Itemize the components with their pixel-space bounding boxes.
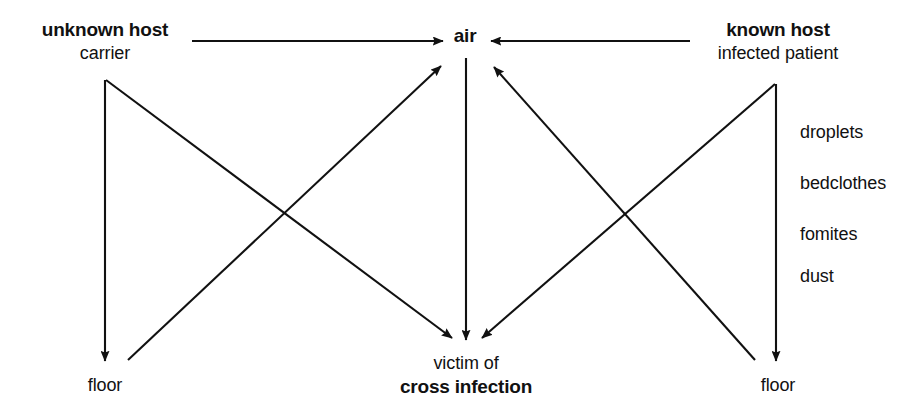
edge-floor-left-to-air [128,66,441,360]
node-air: air [454,24,477,48]
node-floor-right-label: floor [761,374,796,397]
node-known-host-title: known host [718,18,839,42]
vector-label-fomites: fomites [800,224,857,245]
edge-known-host-to-victim [482,84,775,338]
node-known-host: known host infected patient [718,18,839,64]
node-victim-subtitle: victim of [400,352,532,375]
vector-label-dust: dust [800,266,834,287]
node-floor-left: floor [88,374,123,397]
node-unknown-host-subtitle: carrier [42,42,168,65]
node-air-title: air [454,24,477,48]
node-unknown-host: unknown host carrier [42,18,168,64]
node-victim: victim of cross infection [400,352,532,398]
node-known-host-subtitle: infected patient [718,42,839,65]
vector-label-droplets: droplets [800,122,863,143]
node-floor-right: floor [761,374,796,397]
cross-infection-diagram: unknown host carrier air known host infe… [0,0,918,418]
node-floor-left-label: floor [88,374,123,397]
edge-floor-right-to-air [494,67,755,360]
edge-unknown-host-to-victim [106,80,452,338]
vector-label-bedclothes: bedclothes [800,173,886,194]
node-victim-title: cross infection [400,375,532,399]
node-unknown-host-title: unknown host [42,18,168,42]
